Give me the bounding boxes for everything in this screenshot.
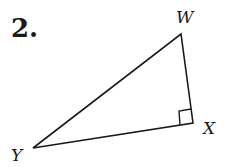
- vertex-label-x: X: [201, 118, 216, 138]
- right-angle-marker: [179, 109, 191, 125]
- vertex-label-w: W: [176, 7, 195, 27]
- problem-number: 2.: [11, 13, 38, 43]
- triangle-wxy: [33, 34, 193, 148]
- vertex-label-y: Y: [11, 145, 24, 165]
- triangle-diagram: 2. W X Y: [0, 0, 225, 167]
